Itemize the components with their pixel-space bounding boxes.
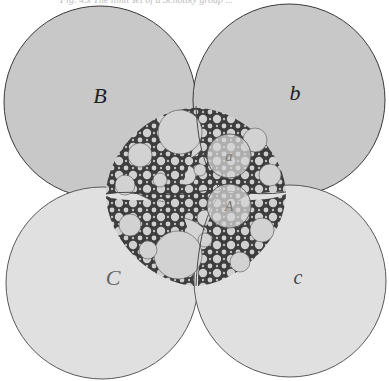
label-b: b	[290, 80, 301, 105]
label-A: A	[224, 199, 234, 214]
label-C: C	[106, 265, 121, 290]
label-B: B	[93, 83, 106, 108]
label-a: a	[226, 149, 233, 164]
label-c: c	[294, 266, 303, 288]
schottky-diagram: B b C c a A	[0, 0, 389, 381]
